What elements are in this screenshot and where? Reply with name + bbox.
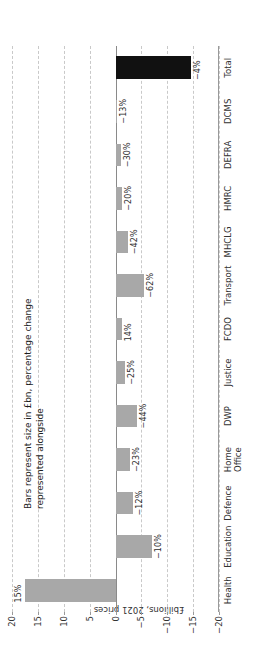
- y-axis-tick-label: 5: [85, 616, 95, 621]
- bar-defence[interactable]: [116, 492, 133, 515]
- bar-total[interactable]: [116, 56, 191, 79]
- y-axis-tick-mark: [90, 612, 91, 615]
- chart-annotation: Bars represent size in £bn, percentage c…: [22, 298, 46, 509]
- category-label-justice: Justice: [224, 359, 234, 387]
- bar-health[interactable]: [25, 579, 116, 602]
- y-axis-tick-mark: [167, 612, 168, 615]
- bar-value-label: −42%: [130, 229, 139, 254]
- y-axis-tick-label: −10: [162, 616, 172, 634]
- bar-value-label: −13%: [119, 99, 128, 124]
- y-axis-tick-mark: [12, 612, 13, 615]
- y-axis-tick-label: 0: [111, 616, 121, 621]
- bar-mhclg[interactable]: [116, 231, 129, 254]
- bar-value-label: 15%: [14, 584, 23, 602]
- category-label-dcms: DCMS: [224, 99, 234, 124]
- bar-value-label: −30%: [123, 142, 132, 167]
- category-label-mhclg: MHCLG: [224, 226, 234, 257]
- category-label-fcdo: FCDO: [224, 317, 234, 341]
- y-axis-tick-mark: [116, 612, 117, 615]
- bar-transport[interactable]: [116, 274, 144, 297]
- category-label-health: Health: [224, 576, 234, 604]
- category-label-defence: Defence: [224, 486, 234, 521]
- category-label-education: Education: [224, 526, 234, 568]
- y-axis-tick-mark: [219, 612, 220, 615]
- bar-value-label: −12%: [135, 491, 144, 516]
- gridline: [12, 46, 13, 612]
- bar-hmrc[interactable]: [116, 187, 123, 210]
- y-axis-tick-label: 10: [59, 616, 69, 627]
- category-label-dwp: DWP: [224, 406, 234, 426]
- bar-value-label: −20%: [124, 186, 133, 211]
- figure-rotation-wrapper: £billions, 2021 prices 20151050−5−10−15−…: [0, 0, 278, 659]
- category-label-home-office: Home Office: [224, 447, 243, 472]
- bar-value-label: −4%: [193, 60, 202, 80]
- bar-home-office[interactable]: [116, 448, 130, 471]
- y-axis-tick-mark: [38, 612, 39, 615]
- category-label-defra: DEFRA: [224, 141, 234, 169]
- bar-fcdo[interactable]: [116, 318, 122, 341]
- y-axis-tick-mark: [141, 612, 142, 615]
- category-label-hmrc: HMRC: [224, 186, 234, 211]
- bar-dcms[interactable]: [116, 100, 117, 123]
- bar-justice[interactable]: [116, 361, 126, 384]
- bar-value-label: −23%: [132, 447, 141, 472]
- bar-value-label: −44%: [139, 404, 148, 429]
- category-label-total: Total: [224, 58, 234, 78]
- gridline: [193, 46, 194, 612]
- chart-figure: £billions, 2021 prices 20151050−5−10−15−…: [0, 0, 278, 659]
- bar-education[interactable]: [116, 535, 152, 558]
- y-axis-tick-mark: [64, 612, 65, 615]
- bar-defra[interactable]: [116, 144, 122, 167]
- y-axis-tick-label: 15: [33, 616, 43, 627]
- bar-value-label: −25%: [127, 360, 136, 385]
- y-axis-tick-label: −20: [214, 616, 224, 634]
- gridline: [141, 46, 142, 612]
- y-axis-tick-mark: [193, 612, 194, 615]
- bar-value-label: −62%: [146, 273, 155, 298]
- bar-value-label: −10%: [154, 534, 163, 559]
- bar-dwp[interactable]: [116, 405, 138, 428]
- bar-value-label: 14%: [124, 323, 133, 341]
- gridline: [90, 46, 91, 612]
- y-axis-tick-label: −5: [136, 616, 146, 629]
- y-axis-tick-label: −15: [188, 616, 198, 634]
- gridline: [167, 46, 168, 612]
- category-label-transport: Transport: [224, 266, 234, 306]
- gridline: [64, 46, 65, 612]
- y-axis-tick-label: 20: [7, 616, 17, 627]
- gridline: [219, 46, 220, 612]
